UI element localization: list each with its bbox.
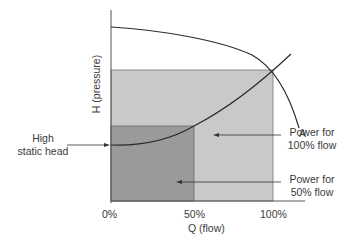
static-head-arrow [67, 143, 110, 147]
x-axis-label: Q (flow) [188, 222, 225, 235]
static-head-label: High static head [14, 132, 72, 158]
power-100-label: Power for 100% flow [282, 126, 342, 152]
power-50-label: Power for 50% flow [282, 173, 342, 199]
power-50-region [111, 126, 194, 201]
x-tick-50: 50% [184, 208, 205, 221]
x-tick-100: 100% [260, 208, 287, 221]
y-axis-label: H (pressure) [90, 44, 102, 124]
x-tick-0: 0% [102, 208, 117, 221]
pump-diagram [0, 0, 345, 243]
